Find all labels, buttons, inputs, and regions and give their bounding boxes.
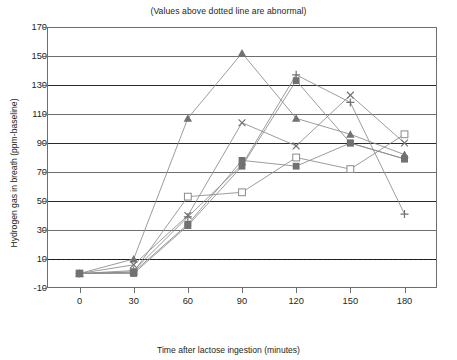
x-tick-mark bbox=[242, 288, 243, 293]
x-tick-mark bbox=[296, 288, 297, 293]
x-tick-label: 90 bbox=[222, 296, 262, 306]
x-tick-label: 150 bbox=[330, 296, 370, 306]
chart-figure: (Values above dotted line are abnormal) … bbox=[0, 0, 457, 360]
y-tick-label: 70 bbox=[13, 167, 47, 177]
x-tick-label: 0 bbox=[60, 296, 100, 306]
y-tick-label: 90 bbox=[13, 138, 47, 148]
x-axis-ticks: 0306090120150180 bbox=[47, 288, 437, 310]
y-tick-label: 10 bbox=[13, 254, 47, 264]
y-axis-ticks: -101030507090110130150170 bbox=[0, 27, 47, 288]
chart-title: (Values above dotted line are abnormal) bbox=[0, 6, 457, 16]
x-tick-mark bbox=[134, 288, 135, 293]
y-tick-label: 50 bbox=[13, 196, 47, 206]
x-tick-label: 60 bbox=[168, 296, 208, 306]
data-series bbox=[76, 131, 408, 277]
x-tick-mark bbox=[80, 288, 81, 293]
data-series bbox=[76, 140, 408, 277]
x-tick-label: 120 bbox=[276, 296, 316, 306]
x-axis-label: Time after lactose ingestion (minutes) bbox=[0, 345, 457, 355]
series-layer bbox=[47, 27, 437, 288]
y-tick-label: -10 bbox=[13, 283, 47, 293]
y-tick-label: 130 bbox=[13, 80, 47, 90]
plot-area bbox=[47, 27, 437, 288]
x-tick-label: 180 bbox=[385, 296, 425, 306]
x-tick-label: 30 bbox=[114, 296, 154, 306]
data-series bbox=[76, 92, 408, 277]
y-tick-label: 170 bbox=[13, 22, 47, 32]
y-tick-label: 30 bbox=[13, 225, 47, 235]
x-tick-mark bbox=[405, 288, 406, 293]
x-tick-mark bbox=[350, 288, 351, 293]
y-tick-label: 110 bbox=[13, 109, 47, 119]
x-tick-mark bbox=[188, 288, 189, 293]
y-tick-label: 150 bbox=[13, 51, 47, 61]
data-series bbox=[76, 77, 408, 277]
